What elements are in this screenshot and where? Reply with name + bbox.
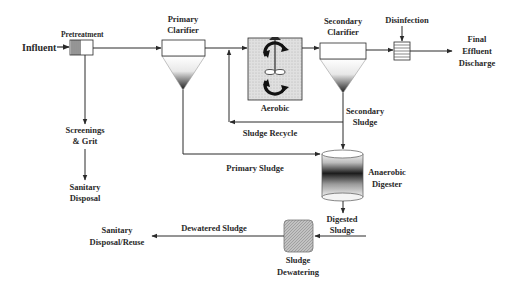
disinfection-label: Disinfection [385,15,429,25]
sludge-dewatering-label-1: Sludge [286,255,311,265]
secondary-sludge-label-1: Secondary [346,106,385,116]
screenings-label-2: & Grit [73,136,98,146]
process-flow-diagram: Influent Pretreatment Screenings & Grit … [0,0,509,287]
sanitary-disposal-reuse-label-2: Disposal/Reuse [90,237,145,247]
mixer-motor-icon [269,37,281,40]
primary-clarifier-label-2: Clarifier [167,25,199,35]
sludge-recycle-label: Sludge Recycle [243,128,298,138]
impeller-icon [265,70,275,75]
final-effluent-label-1: Final [468,34,488,44]
sanitary-disposal-label-1: Sanitary [69,182,101,192]
primary-clarifier-label-1: Primary [168,14,199,24]
sludge-dewatering-unit [284,220,313,252]
aerobic-basin [248,37,302,100]
sludge-dewatering-label-2: Dewatering [277,267,320,277]
secondary-sludge-label-2: Sludge [353,117,378,127]
final-effluent-label-3: Discharge [459,58,496,68]
anaerobic-digester-unit [322,150,363,201]
sanitary-disposal-label-2: Disposal [70,193,101,203]
secondary-clarifier-label-2: Clarifier [327,27,359,37]
anaerobic-digester-label-1: Anaerobic [368,167,406,177]
influent-label: Influent [22,42,57,53]
digested-sludge-label-1: Digested [326,214,357,224]
dewatered-sludge-label: Dewatered Sludge [181,223,247,233]
pretreatment-unit [70,40,93,55]
pretreatment-label: Pretreatment [61,30,104,39]
secondary-clarifier-unit [320,43,366,93]
sanitary-disposal-reuse-label-1: Sanitary [101,225,133,235]
primary-clarifier-unit [162,40,205,90]
final-effluent-label-2: Effluent [462,46,492,56]
secondary-clarifier-label-1: Secondary [324,16,363,26]
screenings-label-1: Screenings [65,125,105,135]
anaerobic-digester-label-2: Digester [372,179,402,189]
disinfection-unit [394,42,410,60]
primary-sludge-label: Primary Sludge [226,163,284,173]
digested-sludge-label-2: Sludge [330,225,355,235]
aerobic-label: Aerobic [261,103,290,113]
